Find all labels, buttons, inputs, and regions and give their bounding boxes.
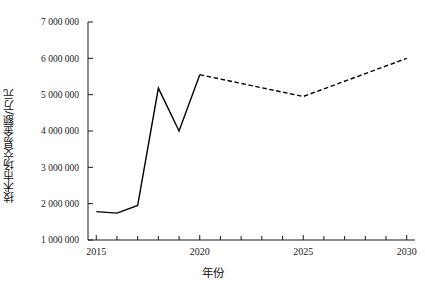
x-tick-label: 2030	[397, 246, 417, 257]
y-tick-label: 4 000 000	[41, 126, 79, 136]
y-tick-label: 2 000 000	[41, 199, 79, 209]
y-tick-label: 7 000 000	[41, 17, 79, 27]
x-axis-tick-labels: 2015202020252030	[86, 246, 416, 257]
series-line-historical	[96, 75, 199, 213]
series-line-forecast	[200, 58, 407, 96]
y-tick-label: 6 000 000	[41, 54, 79, 64]
y-axis-ticks	[88, 22, 93, 240]
x-axis-title-text: 年份	[202, 266, 224, 280]
y-tick-label: 3 000 000	[41, 163, 79, 173]
x-axis-minor-ticks	[117, 236, 386, 240]
x-tick-label: 2025	[293, 246, 313, 257]
y-tick-label: 5 000 000	[41, 90, 79, 100]
x-axis-title: 年份	[0, 264, 425, 280]
line-chart-plot: 1 000 0002 000 0003 000 0004 000 0005 00…	[0, 0, 425, 292]
x-tick-label: 2015	[86, 246, 106, 257]
y-axis-tick-labels: 1 000 0002 000 0003 000 0004 000 0005 00…	[41, 17, 79, 245]
y-tick-label: 1 000 000	[41, 235, 79, 245]
chart-figure: 技术市场交易金额/万元 1 000 0002 000 0003 000 0004…	[0, 0, 425, 292]
x-axis-major-ticks	[96, 235, 406, 240]
x-tick-label: 2020	[190, 246, 210, 257]
